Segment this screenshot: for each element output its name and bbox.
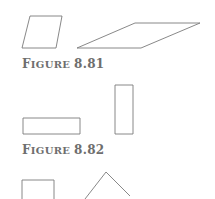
- caption-initial: F: [22, 143, 31, 157]
- figures-canvas: [0, 0, 215, 199]
- diamond-partial: [85, 172, 130, 199]
- parallelogram-wide: [77, 23, 200, 48]
- caption-initial: F: [22, 57, 31, 71]
- caption-word: IGURE: [31, 59, 70, 70]
- rectangle-horizontal: [23, 118, 80, 134]
- figure-caption-8-82: FIGURE 8.82: [22, 143, 104, 157]
- square-partial: [22, 180, 54, 199]
- parallelogram-narrow: [22, 16, 62, 48]
- figure-caption-8-81: FIGURE 8.81: [22, 57, 104, 71]
- rectangle-vertical: [115, 85, 133, 134]
- caption-word: IGURE: [31, 145, 70, 156]
- caption-number: 8.81: [74, 57, 104, 71]
- caption-number: 8.82: [74, 143, 104, 157]
